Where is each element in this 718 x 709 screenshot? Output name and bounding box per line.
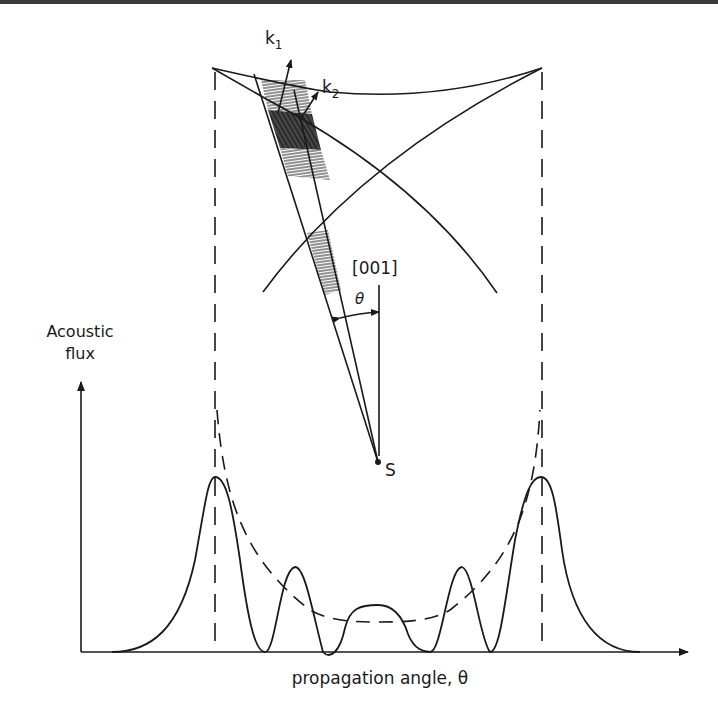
theta-label: θ [355,290,364,308]
hatched-region-top [261,80,312,114]
y-axis-label-line1: Acoustic [46,322,113,341]
wave-flux-curve [112,477,640,655]
x-axis-label: propagation angle, θ [292,668,469,688]
left-cusp-branch [212,68,268,100]
k2-label: k2 [322,77,340,101]
source-point [375,459,381,465]
hatched-region-mid [280,148,330,180]
caustic-diagram: k1 k2 [001] θ S Acoustic flux propagatio… [0,0,718,709]
y-axis-label-line2: flux [65,344,95,363]
direction-001-label: [001] [352,258,398,278]
hatched-region-lower [307,230,341,295]
source-label: S [385,460,396,480]
theta-angle-arc [340,312,379,318]
flux-plot [81,72,688,655]
k1-label: k1 [265,28,283,52]
